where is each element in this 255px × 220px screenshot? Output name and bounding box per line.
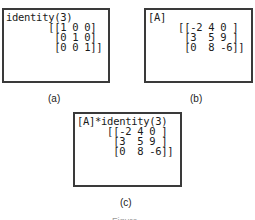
caption-a: (a) <box>48 93 60 104</box>
calculator-screen-c: [A]*identity(3) [[-2 4 0 ] [3 5 9 ] [0 8… <box>73 112 182 187</box>
calculator-screen-a: identity(3) [[1 0 0] [0 1 0] [0 0 1]] <box>2 8 110 83</box>
caption-c: (c) <box>120 197 132 208</box>
screen-line: [0 0 1]] <box>6 42 102 52</box>
screen-line: [0 8 -6]] <box>77 146 173 156</box>
calculator-screen-b: [A] [[-2 4 0 ] [3 5 9 ] [0 8 -6]] <box>144 8 253 83</box>
caption-b: (b) <box>190 93 202 104</box>
figure-label: Figure <box>112 214 138 220</box>
screen-line: [0 8 -6]] <box>148 42 244 52</box>
